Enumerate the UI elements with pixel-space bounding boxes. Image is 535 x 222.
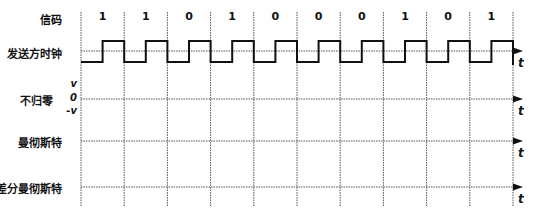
clock-signal: [81, 41, 513, 65]
bit-label: 1: [93, 10, 113, 23]
nrz-level-low: -v: [63, 105, 77, 116]
bit-label: 1: [481, 10, 501, 23]
arrow-icon: [513, 48, 523, 55]
bit-label: 0: [309, 10, 329, 23]
row-label-nrz: 不归零: [0, 92, 53, 108]
bit-label: 1: [136, 10, 156, 23]
arrow-icon: [513, 138, 523, 145]
time-axis-label: t: [518, 146, 524, 160]
time-axis-label: t: [518, 56, 524, 70]
nrz-level-zero: 0: [63, 92, 77, 103]
arrow-icon: [513, 184, 523, 191]
bit-label: 0: [265, 10, 285, 23]
time-axes: [81, 48, 523, 191]
row-label-code: 信码: [0, 11, 62, 27]
bit-label: 0: [438, 10, 458, 23]
bit-label: 0: [352, 10, 372, 23]
row-label-clock: 发送方时钟: [0, 45, 62, 61]
bit-label: 0: [179, 10, 199, 23]
bit-label: 1: [395, 10, 415, 23]
row-label-diff-manchester: 差分曼彻斯特: [0, 180, 62, 196]
nrz-level-high: v: [63, 78, 77, 89]
row-label-manchester: 曼彻斯特: [0, 134, 62, 150]
clock-waveform: [81, 41, 513, 65]
time-axis-label: t: [518, 192, 524, 206]
bit-label: 1: [222, 10, 242, 23]
encoding-diagram: [0, 0, 535, 222]
time-axis-label: t: [518, 104, 524, 118]
arrow-icon: [513, 96, 523, 103]
